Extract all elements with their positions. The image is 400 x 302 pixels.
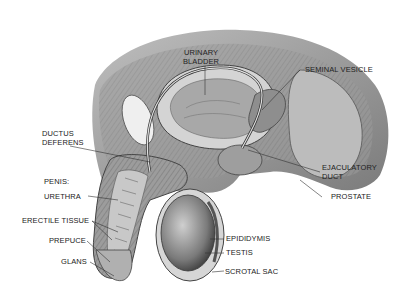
- label-duct-line2: DUCT: [322, 173, 377, 182]
- label-testis: TESTIS: [226, 249, 253, 258]
- anatomy-illustration: [0, 0, 400, 302]
- label-prostate: PROSTATE: [331, 193, 371, 202]
- label-bladder-line2: BLADDER: [183, 58, 219, 67]
- prostate: [218, 145, 262, 175]
- scrotum: [156, 189, 224, 281]
- label-scrotal-sac: SCROTAL SAC: [225, 268, 278, 277]
- label-seminal-vesicle: SEMINAL VESICLE: [305, 66, 373, 75]
- label-penis-header: PENIS:: [44, 178, 69, 187]
- label-glans: GLANS: [61, 258, 87, 267]
- label-prepuce: PREPUCE: [49, 237, 86, 246]
- anatomy-diagram: URINARY BLADDER SEMINAL VESICLE DUCTUS D…: [0, 0, 400, 302]
- label-epididymis: EPIDIDYMIS: [226, 235, 270, 244]
- label-deferens-line2: DEFERENS: [42, 139, 84, 148]
- label-ejaculatory-duct: EJACULATORY DUCT: [322, 164, 377, 181]
- label-erectile-tissue: ERECTILE TISSUE: [22, 217, 89, 226]
- label-urethra: URETHRA: [44, 193, 81, 202]
- label-urinary-bladder: URINARY BLADDER: [183, 49, 219, 66]
- label-ductus-deferens: DUCTUS DEFERENS: [42, 130, 84, 147]
